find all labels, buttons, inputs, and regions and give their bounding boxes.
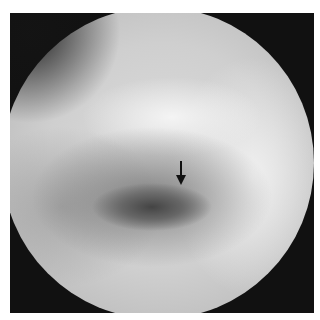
radiograph-field bbox=[10, 13, 314, 313]
radiograph-frame bbox=[10, 13, 314, 313]
arrow-down-icon bbox=[176, 161, 186, 185]
